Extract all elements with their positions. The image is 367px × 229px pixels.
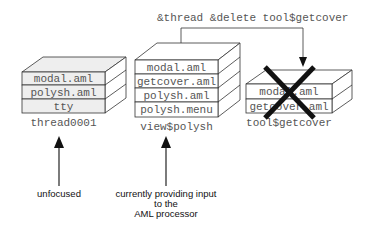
stack-thread0001: modal.aml polysh.aml tty thread0001 [22, 57, 126, 129]
stack-view-polysh: modal.aml getcover.aml polysh.aml polysh… [135, 43, 240, 133]
layer-label: polysh.aml [143, 90, 209, 102]
stack-label: view$polysh [140, 121, 213, 133]
layer-label: polysh.aml [30, 87, 96, 99]
stack-label: thread0001 [30, 117, 96, 129]
connector-arrowhead-icon [299, 57, 307, 67]
arrow-unfocused [54, 136, 64, 186]
layer-label: modal.aml [34, 73, 93, 85]
unfocused-label: unfocused [37, 188, 81, 199]
command-text: &thread &delete tool$getcover [157, 12, 348, 24]
layer-label: polysh.menu [140, 104, 213, 116]
arrow-current-input [161, 136, 171, 186]
current-input-label-line3: AML processor [134, 208, 198, 219]
layer-label: tty [54, 101, 74, 113]
layer-label: getcover.aml [249, 101, 328, 113]
diagram-canvas: &thread &delete tool$getcover modal.aml … [0, 0, 367, 229]
layer-label: getcover.aml [137, 76, 216, 88]
arrow-up-icon [54, 136, 64, 148]
stack-label: tool$getcover [246, 117, 332, 129]
layer-label: modal.aml [147, 62, 206, 74]
stack-tool-getcover: modal.aml getcover.aml tool$getcover [246, 67, 352, 129]
arrow-up-icon [161, 136, 171, 148]
